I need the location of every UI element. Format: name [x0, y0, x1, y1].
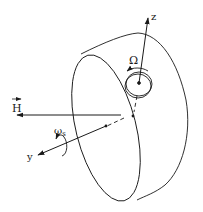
cylinder — [59, 33, 188, 208]
h-label: H — [12, 102, 22, 115]
cylinder-bottom-edge — [137, 100, 188, 200]
gyroscope-diagram: z Ω H y ωs — [0, 0, 203, 212]
rotor-center-dash — [134, 96, 137, 112]
z-label: z — [151, 11, 156, 22]
y-axis — [38, 126, 106, 155]
omega-s-label: ωs — [54, 125, 66, 138]
rotor — [125, 72, 152, 98]
omega-label: Ω — [129, 54, 138, 67]
omega-rotation-arrow — [127, 68, 148, 71]
y-axis-dash — [107, 118, 124, 126]
z-axis — [139, 18, 148, 83]
y-label: y — [26, 151, 33, 162]
